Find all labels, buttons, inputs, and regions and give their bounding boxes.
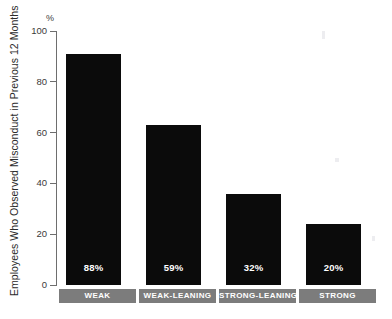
bar-chart: Employees Who Observed Misconduct in Pre…	[0, 0, 392, 319]
y-axis-tick-label: 80	[23, 77, 47, 87]
bar: 88%	[66, 54, 121, 285]
y-axis-tick: 80	[18, 77, 58, 87]
category-label: WEAK-LEANING	[139, 289, 216, 303]
y-axis-tick: 20	[18, 229, 58, 239]
category-label: STRONG-LEANING	[219, 289, 296, 303]
y-axis-tick-mark	[50, 285, 57, 286]
category-label: WEAK	[59, 289, 136, 303]
bar-value-label: 88%	[66, 262, 121, 273]
y-axis-tick-mark	[50, 81, 57, 82]
bar: 20%	[306, 224, 361, 285]
y-axis-tick-label: 20	[23, 229, 47, 239]
y-axis-tick-label: 0	[23, 280, 47, 290]
y-axis-unit-label: %	[40, 13, 60, 23]
category-label-box: STRONG-LEANING	[218, 288, 297, 304]
y-axis-tick-mark	[50, 183, 57, 184]
y-axis-tick-label: 100	[23, 26, 47, 36]
y-axis-tick-mark	[50, 31, 57, 32]
y-axis-tick-mark	[50, 234, 57, 235]
y-axis-tick-label: 40	[23, 178, 47, 188]
bar-value-label: 20%	[306, 262, 361, 273]
y-axis-tick: 40	[18, 178, 58, 188]
bar: 32%	[226, 194, 281, 285]
y-axis-tick-label: 60	[23, 128, 47, 138]
y-axis-tick-mark	[50, 132, 57, 133]
category-label-box: WEAK	[58, 288, 137, 304]
y-axis-tick: 100	[18, 26, 58, 36]
bar-value-label: 32%	[226, 262, 281, 273]
cropped-title-fragment	[4, 0, 124, 5]
y-axis-tick: 0	[18, 280, 58, 290]
plot-area: 88%59%32%20%	[58, 31, 388, 285]
bar: 59%	[146, 125, 201, 285]
y-axis-title: Employees Who Observed Misconduct in Pre…	[7, 6, 21, 296]
bar-value-label: 59%	[146, 262, 201, 273]
category-label-box: STRONG	[298, 288, 377, 304]
category-label-box: WEAK-LEANING	[138, 288, 217, 304]
y-axis-spine	[56, 31, 57, 286]
y-axis-tick: 60	[18, 128, 58, 138]
category-label: STRONG	[299, 289, 376, 303]
